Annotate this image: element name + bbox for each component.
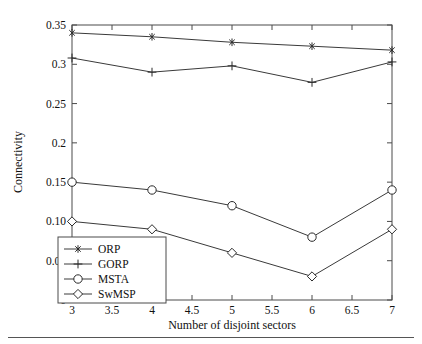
x-tick-label: 3 <box>69 304 75 316</box>
chart-legend: ORPGORPMSTASwMSP <box>58 237 166 303</box>
legend-label: GORP <box>98 258 129 270</box>
marker-circle <box>74 275 82 283</box>
x-tick-label: 7 <box>389 304 395 316</box>
x-tick-label: 5.5 <box>265 304 280 316</box>
y-tick-label: 0.3 <box>52 58 67 70</box>
x-axis-title: Number of disjoint sectors <box>168 318 296 332</box>
x-tick-label: 6 <box>309 304 315 316</box>
marker-circle <box>228 202 236 210</box>
y-tick-label: 0.35 <box>46 19 66 31</box>
legend-label: MSTA <box>98 273 130 285</box>
y-tick-label: 0.25 <box>46 98 66 110</box>
y-axis-title: Connectivity <box>11 131 25 193</box>
connectivity-line-chart: 33.544.555.566.57 00.050.100.150.20.250.… <box>0 0 422 344</box>
x-tick-label: 6.5 <box>345 304 360 316</box>
marker-circle <box>388 186 396 194</box>
x-tick-label: 4.5 <box>185 304 200 316</box>
y-tick-label: 0.10 <box>46 215 66 227</box>
marker-circle <box>308 233 316 241</box>
figure-container: 33.544.555.566.57 00.050.100.150.20.250.… <box>0 0 422 344</box>
x-axis-tick-labels: 33.544.555.566.57 <box>69 304 395 316</box>
legend-label: ORP <box>98 243 120 255</box>
y-tick-label: 0.2 <box>52 137 67 149</box>
marker-circle <box>148 186 156 194</box>
marker-circle <box>68 178 76 186</box>
x-tick-label: 4 <box>149 304 155 316</box>
legend-label: SwMSP <box>98 288 136 300</box>
y-tick-label: 0.15 <box>46 176 66 188</box>
x-tick-label: 3.5 <box>105 304 120 316</box>
footer-divider <box>8 337 414 338</box>
x-tick-label: 5 <box>229 304 235 316</box>
